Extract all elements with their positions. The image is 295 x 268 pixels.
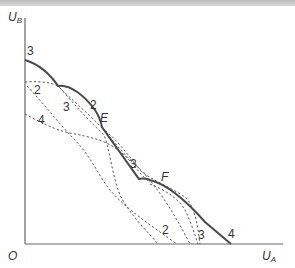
frontier-envelope [25,60,231,244]
y-axis-label: UB [8,11,22,25]
envelope-label-4-end: 4 [228,228,235,240]
origin-label: O [8,250,17,262]
x-axis-label: UA [262,250,276,264]
point-F-label: F [161,171,168,183]
dashed-label-3-lower: 3 [198,229,205,241]
dashed-label-2-upper: 2 [34,84,41,96]
envelope-label-3-start: 3 [27,45,34,57]
dashed-label-4-upper: 4 [38,114,45,126]
point-E-label: E [100,112,108,124]
dashed-curve-2-descending [27,86,177,244]
dashed-curves [25,82,200,244]
dashed-label-3-upper: 3 [63,101,70,113]
dashed-curve-3 [60,88,158,244]
frontier-diagram [0,0,295,268]
dashed-curve-3-lower [102,128,200,244]
dashed-label-2-lower: 2 [162,224,169,236]
envelope-label-3: 3 [130,158,137,170]
envelope-label-2: 2 [90,99,97,111]
dashed-curve-2 [25,82,190,244]
